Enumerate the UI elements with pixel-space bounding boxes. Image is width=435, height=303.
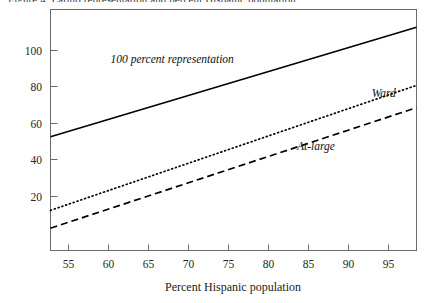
series-line-ward xyxy=(51,85,417,210)
series-label-100-percent-representation: 100 percent representation xyxy=(111,53,235,66)
chart-figure: Figure 4. Latino representation and perc… xyxy=(0,0,435,303)
y-axis-label-100: 100 xyxy=(25,45,43,57)
series-label-group: 100 percent representation Ward At-large xyxy=(111,53,396,153)
series-label-at-large: At-large xyxy=(296,140,335,153)
y-axis-ticks xyxy=(51,51,58,197)
x-axis-label-80: 80 xyxy=(263,258,275,270)
x-axis-labels: 55 60 65 70 75 80 85 90 95 xyxy=(63,258,395,270)
y-axis-label-60: 60 xyxy=(31,118,43,130)
x-axis-label-60: 60 xyxy=(103,258,115,270)
series-line-100-percent-representation xyxy=(51,27,417,136)
y-axis-label-80: 80 xyxy=(31,81,43,93)
x-axis-label-55: 55 xyxy=(63,258,75,270)
x-axis-label-90: 90 xyxy=(343,258,355,270)
x-axis-ticks xyxy=(69,245,389,251)
x-axis-label-95: 95 xyxy=(383,258,395,270)
plot-frame xyxy=(51,10,417,251)
series-line-at-large xyxy=(51,108,417,229)
x-axis-label-85: 85 xyxy=(303,258,315,270)
y-axis-label-40: 40 xyxy=(31,154,43,166)
line-chart-svg: 100 80 60 40 20 55 60 65 70 75 80 85 xyxy=(0,0,435,303)
x-axis-label-65: 65 xyxy=(143,258,155,270)
x-axis-label-75: 75 xyxy=(223,258,235,270)
x-axis-title: Percent Hispanic population xyxy=(165,280,301,294)
y-axis-labels: 100 80 60 40 20 xyxy=(25,45,43,203)
x-axis-label-70: 70 xyxy=(183,258,195,270)
series-label-ward: Ward xyxy=(372,87,396,99)
y-axis-label-20: 20 xyxy=(31,191,43,203)
